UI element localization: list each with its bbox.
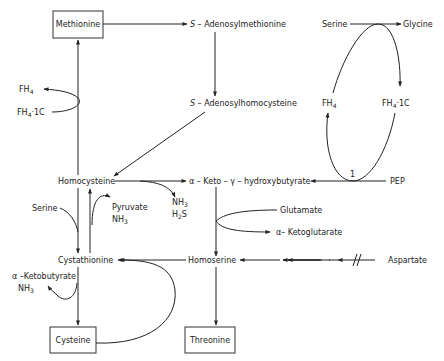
h2s-label: H2S xyxy=(172,210,187,220)
serine-to-cystathionine-arc xyxy=(60,208,78,232)
cysteine-label: Cysteine xyxy=(56,336,91,345)
nh3-pyruvate-label: NH3 xyxy=(112,215,128,225)
pep-label: PEP xyxy=(390,177,405,186)
nh3-ketobutyrate-label: NH3 xyxy=(18,284,34,294)
nh3-label: NH3 xyxy=(172,198,188,208)
fh4-right-label: FH4 xyxy=(322,99,337,109)
aspartate-label: Aspartate xyxy=(388,256,427,265)
serine-top-label: Serine xyxy=(322,20,348,29)
methionine-label: Methionine xyxy=(56,20,101,29)
cysteine-to-cystathionine-arc xyxy=(96,260,175,343)
fh4-1c-right-label: FH4·1C xyxy=(382,99,410,109)
arrow-nh3-h2s-release xyxy=(140,181,175,197)
sam-label: S – Adenosylmethionine xyxy=(190,20,286,29)
metabolic-pathway-diagram: Methionine Cysteine Threonine S – Adenos… xyxy=(0,0,444,361)
sah-label: S – Adenosylhomocysteine xyxy=(190,99,297,108)
cystathionine-label: Cystathionine xyxy=(58,256,113,265)
homoserine-label: Homoserine xyxy=(188,256,236,265)
methionine-node: Methionine xyxy=(53,11,103,38)
fh4-loop-arc xyxy=(327,113,395,181)
ketoglutarate-label: α– Ketoglutarate xyxy=(276,228,342,237)
fh4-left-label: FH4 xyxy=(19,85,34,95)
fh4-cycle-arrow-left xyxy=(44,89,80,112)
arrow-sah-to-homocysteine xyxy=(114,112,205,176)
ketobutyrate-release-arc xyxy=(48,283,77,299)
threonine-label: Threonine xyxy=(189,336,230,345)
keto-hydroxybutyrate-label: α – Keto – γ – hydroxybutyrate xyxy=(189,177,311,186)
homocysteine-label: Homocysteine xyxy=(58,177,115,186)
serine-left-label: Serine xyxy=(32,204,58,213)
pyruvate-release-arc xyxy=(92,196,110,225)
serine-glycine-arc xyxy=(333,24,400,93)
enzyme-number-label: 1 xyxy=(350,170,355,179)
ketobutyrate-label: α –Ketobutyrate xyxy=(12,272,76,281)
pyruvate-label: Pyruvate xyxy=(112,203,148,212)
cysteine-node: Cysteine xyxy=(50,327,96,353)
glutamate-ketoglutarate-arc xyxy=(216,210,277,232)
glutamate-label: Glutamate xyxy=(280,206,322,215)
glycine-label: Glycine xyxy=(403,20,433,29)
threonine-node: Threonine xyxy=(185,327,235,353)
fh4-1c-left-label: FH4·1C xyxy=(17,108,45,118)
